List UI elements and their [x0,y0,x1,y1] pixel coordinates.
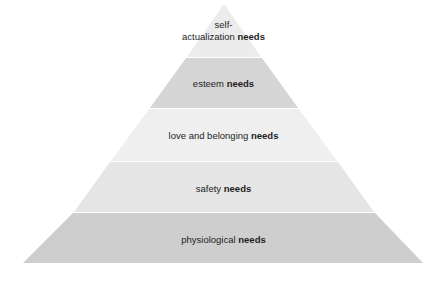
label-self-line2: actualization needs [0,31,447,43]
label-self-bold: needs [237,31,264,42]
label-love-plain: love and belonging [169,130,251,141]
label-physiological: physiological needs [0,234,447,246]
label-esteem-bold: needs [227,78,254,89]
label-self-plain: actualization [182,31,237,42]
label-physiological-plain: physiological [181,234,238,245]
label-physiological-bold: needs [238,234,265,245]
label-love-bold: needs [251,130,278,141]
label-safety-bold: needs [224,183,251,194]
label-love-belonging: love and belonging needs [0,130,447,142]
label-self-actualization: self- actualization needs [0,19,447,43]
label-esteem: esteem needs [0,78,447,90]
label-safety: safety needs [0,183,447,195]
label-self-line1: self- [0,19,447,31]
label-esteem-plain: esteem [193,78,227,89]
label-safety-plain: safety [196,183,224,194]
